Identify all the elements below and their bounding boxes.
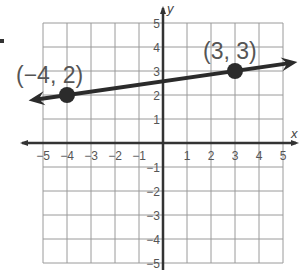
y-tick-label: −5 bbox=[146, 257, 160, 270]
x-axis-arrow-left-icon bbox=[20, 140, 28, 146]
point-label-2: (3, 3) bbox=[203, 38, 257, 64]
data-point bbox=[227, 63, 243, 79]
x-tick-label: 3 bbox=[232, 149, 239, 163]
y-tick-label: 4 bbox=[153, 41, 160, 55]
point-labels: (−4, 2)(3, 3) bbox=[16, 38, 257, 88]
y-tick-label: 1 bbox=[153, 113, 160, 127]
y-tick-label: 2 bbox=[153, 89, 160, 103]
x-tick-label: 2 bbox=[208, 149, 215, 163]
y-tick-label: 5 bbox=[153, 17, 160, 31]
x-tick-label: 4 bbox=[256, 149, 263, 163]
x-axis-label: x bbox=[290, 126, 298, 141]
x-tick-label: 1 bbox=[184, 149, 191, 163]
x-tick-label: −3 bbox=[84, 149, 98, 163]
coordinate-plane: yx −5−4−3−2−11234554321−1−2−3−4−5 (−4, 2… bbox=[0, 0, 299, 270]
x-tick-label: −2 bbox=[108, 149, 122, 163]
data-point bbox=[59, 87, 75, 103]
point-label-1: (−4, 2) bbox=[16, 62, 83, 88]
y-tick-label: −2 bbox=[146, 185, 160, 199]
x-tick-label: −5 bbox=[36, 149, 50, 163]
y-tick-label: −3 bbox=[146, 209, 160, 223]
x-tick-label: 5 bbox=[280, 149, 287, 163]
y-tick-label: −4 bbox=[146, 233, 160, 247]
y-tick-label: 3 bbox=[153, 65, 160, 79]
y-axis-label: y bbox=[166, 1, 175, 16]
x-tick-label: −4 bbox=[60, 149, 74, 163]
y-axis-arrow-up-icon bbox=[160, 6, 166, 14]
stray-mark bbox=[0, 39, 4, 43]
x-tick-label: −1 bbox=[132, 149, 146, 163]
y-tick-label: −1 bbox=[146, 161, 160, 175]
